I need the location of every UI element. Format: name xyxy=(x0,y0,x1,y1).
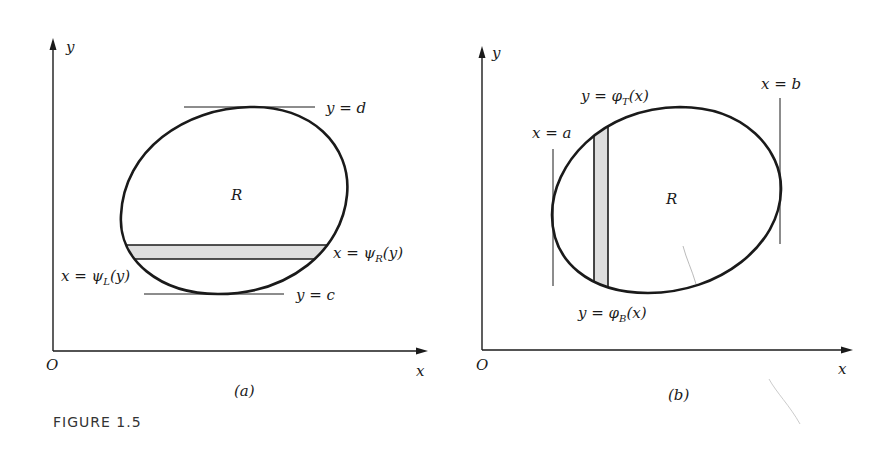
panel-b-label: (b) xyxy=(668,386,689,404)
panel-a-label: (a) xyxy=(234,382,255,400)
label-y-equals-d: y = d xyxy=(325,99,366,117)
x-axis-arrow-icon xyxy=(416,348,428,355)
scan-artifact xyxy=(683,246,696,284)
x-axis-label: x xyxy=(838,360,847,378)
panel-b: y O x R x = a x = b y = φT(x) y = φB(x) … xyxy=(476,44,853,424)
origin-label: O xyxy=(46,356,58,374)
region-label: R xyxy=(230,186,242,204)
region-label: R xyxy=(665,190,677,208)
panel-a: y O x R y = d y = c x = ψR(y) x = ψL(y) … xyxy=(46,38,428,400)
label-x-equals-b: x = b xyxy=(761,75,801,93)
y-axis-label: y xyxy=(491,44,501,62)
y-axis-arrow-icon xyxy=(479,46,486,58)
label-phi-bottom: y = φB(x) xyxy=(577,304,647,324)
figure-canvas: y O x R y = d y = c x = ψR(y) x = ψL(y) … xyxy=(0,0,894,451)
scan-artifact xyxy=(769,379,800,424)
figure-caption: FIGURE 1.5 xyxy=(53,414,142,430)
x-axis-label: x xyxy=(416,362,425,380)
label-psi-right: x = ψR(y) xyxy=(333,244,403,264)
label-psi-left: x = ψL(y) xyxy=(61,267,130,287)
label-phi-top: y = φT(x) xyxy=(580,87,649,107)
y-axis-arrow-icon xyxy=(50,38,57,50)
x-axis-arrow-icon xyxy=(841,347,853,354)
y-axis-label: y xyxy=(65,38,75,56)
label-y-equals-c: y = c xyxy=(295,286,336,304)
label-x-equals-a: x = a xyxy=(532,124,572,142)
origin-label: O xyxy=(476,356,488,374)
